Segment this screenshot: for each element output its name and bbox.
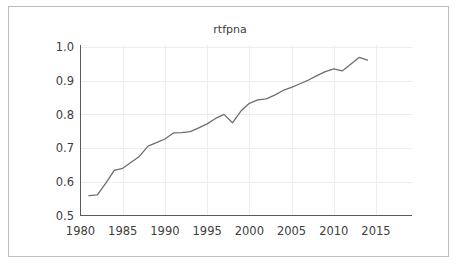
data-series-line-rtfpna [89, 57, 368, 195]
x-axis-tick-labels: 19801985199019952000200520102015 [66, 224, 391, 238]
y-tick-label: 0.7 [56, 141, 74, 155]
chart-canvas: 0.50.60.70.80.91.0 198019851990199520002… [0, 0, 459, 268]
x-tick-label: 2010 [319, 224, 348, 238]
y-axis-tick-labels: 0.50.60.70.80.91.0 [56, 40, 74, 223]
x-tick-label: 2015 [361, 224, 390, 238]
x-tick-label: 1990 [150, 224, 179, 238]
y-tick-label: 0.6 [56, 175, 74, 189]
y-tick-label: 0.8 [56, 108, 74, 122]
y-tick-label: 0.9 [56, 74, 74, 88]
y-tick-label: 1.0 [56, 40, 74, 54]
chart-title: rtfpna [213, 23, 246, 36]
x-tick-label: 2000 [235, 224, 264, 238]
y-tick-label: 0.5 [56, 209, 74, 223]
x-tick-label: 1980 [66, 224, 95, 238]
x-tick-label: 1995 [193, 224, 222, 238]
x-tick-label: 2005 [277, 224, 306, 238]
x-tick-label: 1985 [108, 224, 137, 238]
